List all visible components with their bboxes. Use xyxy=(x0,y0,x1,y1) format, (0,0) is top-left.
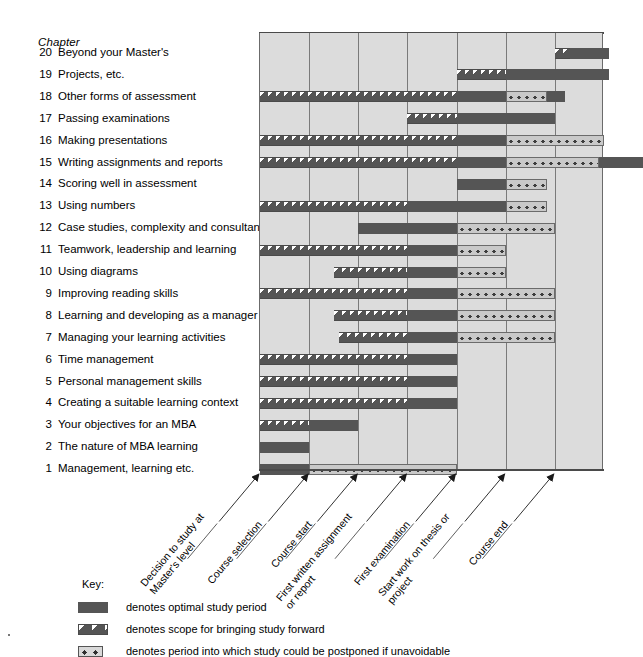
bar-segment-dots xyxy=(506,135,604,146)
bar-segment-solid xyxy=(407,267,456,278)
key-swatch-dots-icon xyxy=(78,646,103,657)
bar-segment-hatch xyxy=(260,398,407,409)
bar-segment-hatch xyxy=(260,201,407,212)
chapter-number: 5 xyxy=(30,375,52,387)
bar-segment-hatch xyxy=(260,288,407,299)
chapter-number: 3 xyxy=(30,418,52,430)
bar-segment-hatch xyxy=(334,267,408,278)
chapter-title: Learning and developing as a manager xyxy=(58,309,257,321)
bar-segment-solid xyxy=(599,157,643,168)
chapter-number: 19 xyxy=(30,68,52,80)
bar-segment-solid xyxy=(260,442,309,453)
chapter-number: 6 xyxy=(30,353,52,365)
chapter-title: Personal management skills xyxy=(58,375,202,387)
chapter-number: 13 xyxy=(30,199,52,211)
chapter-number: 4 xyxy=(30,396,52,408)
chapter-title: Beyond your Master's xyxy=(58,46,169,58)
bar-segment-solid xyxy=(506,69,609,80)
milestone-label: First written assignmentor report xyxy=(273,511,363,611)
bar-segment-solid xyxy=(407,332,456,343)
bar-segment-solid xyxy=(358,223,456,234)
bar-segment-solid xyxy=(457,113,555,124)
page-corner-mark xyxy=(8,634,10,636)
chapter-title: Improving reading skills xyxy=(58,287,178,299)
chapter-title: Other forms of assessment xyxy=(58,90,196,102)
key-title: Key: xyxy=(82,578,104,590)
chapter-number: 2 xyxy=(30,440,52,452)
bar-segment-dots xyxy=(457,332,555,343)
bar-segment-hatch xyxy=(334,310,408,321)
chapter-number: 17 xyxy=(30,112,52,124)
bar-segment-dots xyxy=(457,245,506,256)
chapter-number: 1 xyxy=(30,462,52,474)
bar-segment-hatch xyxy=(260,420,309,431)
chapter-title: Projects, etc. xyxy=(58,68,124,80)
chapter-number: 18 xyxy=(30,90,52,102)
bar-segment-dots xyxy=(457,288,555,299)
chart-plot-area xyxy=(259,33,603,470)
chapter-title: Making presentations xyxy=(58,134,167,146)
chart-bottom-border xyxy=(259,469,604,471)
bar-segment-hatch xyxy=(260,157,457,168)
key-description: denotes period into which study could be… xyxy=(126,645,450,657)
chapter-number: 14 xyxy=(30,177,52,189)
chapter-title: The nature of MBA learning xyxy=(58,440,198,452)
chapter-title: Case studies, complexity and consultancy xyxy=(58,221,272,233)
chapter-number: 7 xyxy=(30,331,52,343)
milestone-label: Course end xyxy=(466,518,510,567)
bar-segment-solid xyxy=(407,310,456,321)
bar-segment-solid xyxy=(407,245,456,256)
bar-segment-solid xyxy=(570,48,609,59)
bar-segment-hatch xyxy=(260,376,407,387)
chapter-number: 12 xyxy=(30,221,52,233)
chapter-title: Management, learning etc. xyxy=(58,462,194,474)
key-swatch-hatch-icon xyxy=(78,624,108,635)
milestone-label: Start work on thesis orproject xyxy=(375,511,461,606)
milestone-arrow xyxy=(416,474,456,521)
chapter-title: Passing examinations xyxy=(58,112,170,124)
bar-segment-hatch xyxy=(555,48,570,59)
chapter-number: 20 xyxy=(30,46,52,58)
chapter-title: Creating a suitable learning context xyxy=(58,396,238,408)
bar-segment-solid xyxy=(457,179,506,190)
bar-segment-dots xyxy=(506,179,548,190)
bar-segment-solid xyxy=(457,135,506,146)
bar-segment-solid xyxy=(309,420,358,431)
chapter-number: 16 xyxy=(30,134,52,146)
bar-segment-dots xyxy=(457,310,555,321)
chapter-title: Using diagrams xyxy=(58,265,138,277)
key-description: denotes optimal study period xyxy=(126,601,267,613)
chapter-title: Scoring well in assessment xyxy=(58,177,197,189)
bar-segment-solid xyxy=(407,376,456,387)
milestone-arrow xyxy=(367,474,407,521)
chapter-title: Your objectives for an MBA xyxy=(58,418,196,430)
bar-segment-dots xyxy=(457,267,506,278)
bar-segment-solid xyxy=(407,354,456,365)
chapter-number: 11 xyxy=(30,243,52,255)
bar-segment-hatch xyxy=(260,245,407,256)
chapter-title: Time management xyxy=(58,353,153,365)
bar-segment-dots xyxy=(506,91,548,102)
milestone-arrow xyxy=(465,474,505,521)
chapter-number: 9 xyxy=(30,287,52,299)
bar-segment-solid xyxy=(457,91,506,102)
chapter-title: Using numbers xyxy=(58,199,135,211)
key-description: denotes scope for bringing study forward xyxy=(126,623,325,635)
milestone-arrow xyxy=(268,474,308,521)
bar-segment-hatch xyxy=(339,332,408,343)
chapter-number: 8 xyxy=(30,309,52,321)
bar-segment-solid xyxy=(547,91,564,102)
milestone-arrow xyxy=(514,474,554,521)
bar-segment-solid xyxy=(407,398,456,409)
bar-segment-hatch xyxy=(457,69,506,80)
bar-segment-dots xyxy=(457,223,555,234)
bar-segment-hatch xyxy=(260,135,457,146)
bar-segment-hatch xyxy=(260,91,457,102)
bar-segment-solid xyxy=(407,288,456,299)
bar-segment-solid xyxy=(457,157,506,168)
bar-segment-hatch xyxy=(407,113,456,124)
bar-segment-hatch xyxy=(260,354,407,365)
chapter-number: 10 xyxy=(30,265,52,277)
bar-segment-dots xyxy=(506,201,548,212)
